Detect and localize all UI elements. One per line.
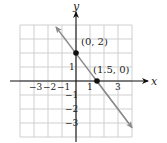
point-label: (1.5, 0) xyxy=(93,64,130,75)
y-axis-label: y xyxy=(72,0,80,13)
y-tick-label: 1 xyxy=(69,62,75,72)
x-tick-label: −3 xyxy=(29,82,43,92)
x-tick-label: 3 xyxy=(115,82,121,92)
line-segment-down xyxy=(94,77,132,127)
y-tick-label: −1 xyxy=(65,90,78,100)
y-tick-label: −3 xyxy=(65,118,79,128)
coordinate-plane: −3−2−1131−1−2−3 (0, 2)(1.5, 0) x y xyxy=(0,0,167,143)
x-tick-label: 1 xyxy=(87,82,93,92)
data-point xyxy=(94,78,100,84)
x-axis-label: x xyxy=(151,75,158,88)
data-point xyxy=(73,50,79,56)
x-tick-label: −2 xyxy=(43,82,56,92)
y-tick-label: −2 xyxy=(65,104,78,114)
point-label: (0, 2) xyxy=(81,36,108,47)
